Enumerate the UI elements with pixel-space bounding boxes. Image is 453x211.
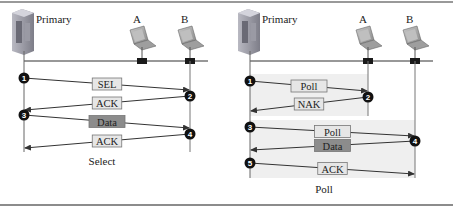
laptop-icon bbox=[356, 26, 382, 50]
station-label: B bbox=[181, 13, 188, 25]
step-marker: 2 bbox=[185, 91, 196, 102]
svg-text:4: 4 bbox=[413, 137, 418, 146]
panel-poll: PrimaryABPoll1NAK2Poll3Data4ACK5Poll bbox=[238, 9, 433, 195]
station-b: B bbox=[403, 13, 429, 64]
svg-text:5: 5 bbox=[248, 159, 253, 168]
step-marker: 1 bbox=[245, 76, 256, 87]
step-marker: 5 bbox=[245, 158, 256, 169]
message-ack-step-2: ACK2 bbox=[25, 91, 196, 111]
svg-text:2: 2 bbox=[366, 93, 371, 102]
message-label: Data bbox=[97, 117, 117, 128]
station-a: A bbox=[356, 13, 382, 64]
laptop-icon bbox=[130, 26, 156, 50]
svg-text:3: 3 bbox=[22, 111, 27, 120]
svg-text:2: 2 bbox=[188, 92, 193, 101]
panel-caption: Select bbox=[89, 155, 116, 167]
step-marker: 4 bbox=[185, 129, 196, 140]
station-label: B bbox=[406, 13, 413, 25]
svg-text:1: 1 bbox=[248, 77, 253, 86]
message-data-step-3: Data3 bbox=[19, 110, 190, 129]
message-sel-step-1: SEL1 bbox=[19, 73, 190, 91]
message-ack-step-4: ACK4 bbox=[25, 129, 196, 149]
primary-server-icon bbox=[12, 9, 34, 55]
message-label: Data bbox=[323, 141, 343, 152]
laptop-icon bbox=[403, 26, 429, 50]
bus-tap bbox=[137, 58, 147, 64]
select-poll-diagram: PrimaryABSEL1ACK2Data3ACK4SelectPrimaryA… bbox=[0, 0, 453, 211]
message-label: ACK bbox=[96, 136, 119, 147]
primary-label: Primary bbox=[262, 13, 298, 25]
panel-select: PrimaryABSEL1ACK2Data3ACK4Select bbox=[12, 9, 208, 167]
step-marker: 4 bbox=[410, 136, 421, 147]
station-label: A bbox=[359, 13, 367, 25]
message-label: Poll bbox=[324, 127, 341, 138]
step-marker: 3 bbox=[19, 110, 30, 121]
svg-text:4: 4 bbox=[188, 130, 193, 139]
message-label: Poll bbox=[301, 81, 318, 92]
svg-text:3: 3 bbox=[248, 123, 253, 132]
panel-caption: Poll bbox=[315, 183, 333, 195]
step-marker: 1 bbox=[19, 73, 30, 84]
primary-server-icon bbox=[238, 9, 260, 55]
step-marker: 3 bbox=[245, 122, 256, 133]
message-label: SEL bbox=[98, 79, 117, 90]
message-label: ACK bbox=[96, 98, 119, 109]
station-a: A bbox=[130, 13, 156, 64]
laptop-icon bbox=[178, 26, 204, 50]
message-label: ACK bbox=[321, 164, 344, 175]
station-label: A bbox=[133, 13, 141, 25]
message-label: NAK bbox=[298, 99, 321, 110]
primary-label: Primary bbox=[36, 13, 72, 25]
station-b: B bbox=[178, 13, 204, 64]
step-marker: 2 bbox=[363, 92, 374, 103]
svg-text:1: 1 bbox=[22, 74, 27, 83]
